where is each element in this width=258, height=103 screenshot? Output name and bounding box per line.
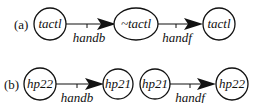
node-b2: hp21 [103, 69, 133, 99]
panel-a: (a) tactl handb ~tactl handf tactl [14, 8, 235, 45]
node-a2: ~tactl [114, 8, 158, 40]
edge-a1-a2: handb [66, 18, 116, 45]
edge-a2-a3: handf [158, 18, 203, 45]
edge-a2-a3-label: handf [162, 30, 194, 45]
node-b1: hp22 [24, 68, 56, 100]
edge-b1-b2: handb [56, 78, 104, 103]
node-a3: tactl [203, 8, 235, 40]
node-b1-label: hp22 [27, 76, 54, 91]
edge-b3-b4-label: handf [175, 90, 207, 103]
panel-a-label: (a) [14, 17, 28, 32]
state-diagram: (a) tactl handb ~tactl handf tactl (b) [0, 0, 258, 103]
node-b3: hp21 [140, 69, 170, 99]
node-b2-label: hp21 [105, 76, 131, 91]
node-a1-label: tactl [38, 16, 61, 31]
edge-b3-b4: handf [170, 78, 216, 103]
node-b4: hp22 [216, 68, 248, 100]
node-a1: tactl [34, 8, 66, 40]
panel-b-label: (b) [4, 77, 19, 92]
node-b4-label: hp22 [219, 76, 246, 91]
edge-a1-a2-label: handb [73, 30, 106, 45]
node-a3-label: tactl [207, 16, 230, 31]
node-a2-label: ~tactl [121, 16, 152, 31]
edge-b1-b2-label: handb [61, 90, 94, 103]
node-b3-label: hp21 [142, 76, 168, 91]
panel-b: (b) hp22 handb hp21 hp21 handf hp [4, 68, 248, 103]
